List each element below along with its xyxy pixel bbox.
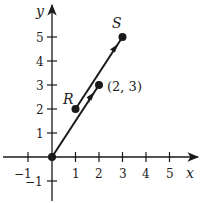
x-axis-label: x: [186, 165, 194, 181]
y-axis-label: y: [35, 3, 45, 19]
point-s: [119, 33, 127, 41]
point-2-3-label: (2, 3): [107, 79, 142, 94]
point-2-3: [95, 81, 103, 89]
x-tick-label: 2: [95, 167, 103, 181]
arrowhead-icon: [87, 92, 95, 101]
y-tick-label: 1: [36, 127, 44, 141]
y-tick-label: 2: [36, 103, 44, 117]
origin-point: [48, 153, 56, 161]
y-tick-label: 4: [36, 55, 44, 69]
y-tick-label: 3: [36, 79, 44, 93]
point-r-label: R: [62, 91, 74, 107]
x-tick-label: 4: [142, 167, 150, 181]
point-s-label: S: [112, 15, 122, 31]
y-tick-label: 5: [36, 31, 44, 45]
x-tick-label: 5: [166, 167, 174, 181]
y-tick-label: −1: [25, 175, 43, 189]
arrowhead-icon: [110, 44, 118, 53]
coordinate-plane-diagram: −1 1 2 3 4 5 −1 1 2 3 4 5 x y R S (2, 3): [0, 0, 206, 203]
x-tick-label: 3: [119, 167, 127, 181]
x-tick-label: 1: [72, 167, 80, 181]
